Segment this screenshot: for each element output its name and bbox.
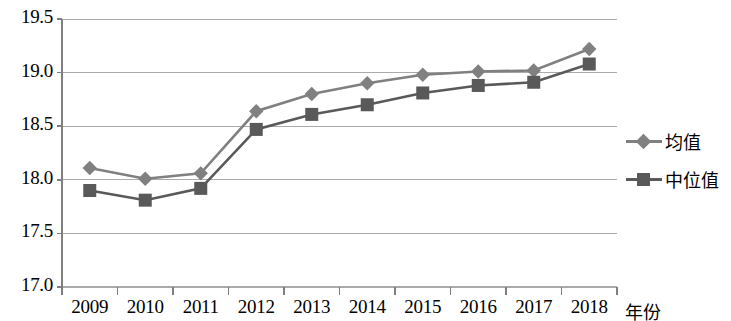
data-point	[527, 63, 541, 77]
data-point	[139, 194, 152, 207]
series-line-mean	[90, 49, 590, 179]
data-point	[305, 108, 318, 121]
data-point	[416, 86, 429, 99]
data-point	[471, 64, 485, 78]
gridlines	[62, 19, 617, 287]
legend-label-median: 中位值	[665, 166, 719, 192]
x-tick-label: 2018	[555, 296, 623, 318]
data-point	[361, 98, 374, 111]
data-point	[194, 182, 207, 195]
y-tick-label: 18.5	[0, 113, 53, 135]
data-point	[527, 76, 540, 89]
data-point	[583, 58, 596, 71]
legend-swatch-diamond	[626, 133, 662, 149]
chart-canvas	[0, 0, 731, 321]
data-point	[138, 172, 152, 186]
y-tick-label: 17.5	[0, 220, 53, 242]
legend-label-mean: 均值	[665, 128, 701, 154]
axis-lines	[57, 19, 62, 295]
data-series-layer	[83, 42, 597, 207]
y-tick-label: 19.5	[0, 6, 53, 28]
data-point	[416, 68, 430, 82]
data-point	[472, 79, 485, 92]
x-axis-title: 年份	[625, 298, 661, 321]
x-tick-marks	[62, 287, 617, 295]
chart-legend: 均值 中位值	[626, 122, 731, 198]
legend-swatch-square	[626, 171, 662, 187]
data-point	[360, 76, 374, 90]
data-point	[582, 42, 596, 56]
legend-item-median: 中位值	[626, 160, 731, 198]
y-tick-label: 19.0	[0, 60, 53, 82]
y-tick-label: 17.0	[0, 274, 53, 296]
data-point	[305, 87, 319, 101]
data-point	[250, 123, 263, 136]
legend-item-mean: 均值	[626, 122, 731, 160]
data-point	[83, 184, 96, 197]
line-chart: 17.017.518.018.519.019.5 200920102011201…	[0, 0, 731, 321]
y-tick-label: 18.0	[0, 167, 53, 189]
data-point	[83, 161, 97, 175]
